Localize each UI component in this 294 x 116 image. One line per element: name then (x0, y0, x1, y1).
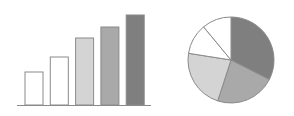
bar-2 (50, 57, 68, 105)
bar-4 (101, 27, 119, 105)
bar-1 (25, 72, 43, 105)
pie-chart (188, 17, 274, 103)
bar-5 (126, 15, 144, 105)
bar-chart (17, 15, 151, 106)
charts-canvas (0, 0, 294, 116)
bar-3 (76, 38, 94, 105)
